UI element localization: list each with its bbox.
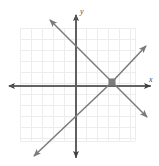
- decreasing-line: [50, 20, 147, 117]
- graph-canvas: x y: [0, 0, 159, 166]
- increasing-line-upper-arrow: [112, 46, 146, 82]
- grid-lines: [20, 28, 135, 141]
- coordinate-graph-figure: x y: [0, 0, 159, 166]
- y-axis-label: y: [79, 7, 84, 16]
- x-axis-label: x: [148, 75, 153, 84]
- increasing-line: [34, 46, 146, 156]
- decreasing-line-upper-arrow: [50, 20, 112, 82]
- increasing-line-lower-arrow: [34, 82, 112, 156]
- intersection-point-marker: [109, 79, 116, 86]
